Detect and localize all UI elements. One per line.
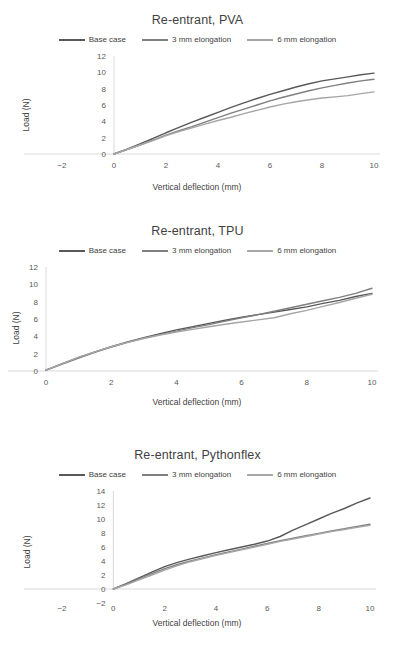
axis-y-title-pva: Load (N) xyxy=(21,85,31,145)
series-line-6-mm-elongation xyxy=(113,525,370,589)
y-tick-label: 2 xyxy=(34,349,39,358)
axis-y-title-tpu: Load (N) xyxy=(11,298,21,358)
legend-item-base-case[interactable]: Base case xyxy=(59,247,126,255)
legend-item-6mm-elongation[interactable]: 6 mm elongation xyxy=(247,247,336,255)
legend-swatch-6mm-elongation xyxy=(247,39,273,41)
chart-panel-tpu: Re-entrant, TPU Base case 3 mm elongatio… xyxy=(0,222,395,445)
legend-item-3mm-elongation[interactable]: 3 mm elongation xyxy=(142,471,231,479)
series-line-3-mm-elongation xyxy=(113,524,370,589)
series-line-3-mm-elongation xyxy=(46,288,372,370)
legend-label-6mm-elongation: 6 mm elongation xyxy=(277,247,336,255)
legend-label-6mm-elongation: 6 mm elongation xyxy=(277,36,336,44)
legend-item-3mm-elongation[interactable]: 3 mm elongation xyxy=(142,36,231,44)
y-tick-label: 8 xyxy=(101,529,106,538)
x-tick-label: 8 xyxy=(305,378,310,387)
series-line-3-mm-elongation xyxy=(114,79,374,154)
x-tick-label: 6 xyxy=(239,378,244,387)
x-tick-label: 2 xyxy=(162,604,167,613)
y-tick-label: 12 xyxy=(29,263,38,272)
legend-item-base-case[interactable]: Base case xyxy=(59,36,126,44)
y-tick-label: 4 xyxy=(101,557,106,566)
legend-item-6mm-elongation[interactable]: 6 mm elongation xyxy=(247,36,336,44)
y-tick-label: 6 xyxy=(102,101,107,110)
legend-label-base-case: Base case xyxy=(89,471,126,479)
y-tick-label: 10 xyxy=(29,280,38,289)
series-line-base-case xyxy=(46,293,372,370)
y-tick-label: 8 xyxy=(34,297,39,306)
plot-area-pythonflex: Load (N) −202468101214−20246810 Vertical… xyxy=(0,485,395,625)
axis-y-title-pythonflex: Load (N) xyxy=(22,522,32,582)
legend-swatch-3mm-elongation xyxy=(142,39,168,41)
y-tick-label: 6 xyxy=(34,315,39,324)
figure-three-panel-load-deflection: Re-entrant, PVA Base case 3 mm elongatio… xyxy=(0,0,395,662)
x-tick-label: 0 xyxy=(111,604,116,613)
y-tick-label: 0 xyxy=(101,585,106,594)
x-tick-label: 4 xyxy=(174,378,179,387)
plot-svg-pva: 024681012−20246810 xyxy=(0,50,395,185)
legend-label-base-case: Base case xyxy=(89,36,126,44)
chart-legend-pva: Base case 3 mm elongation 6 mm elongatio… xyxy=(0,36,395,44)
series-line-6-mm-elongation xyxy=(114,91,374,153)
legend-item-base-case[interactable]: Base case xyxy=(59,471,126,479)
y-tick-label: 12 xyxy=(96,501,105,510)
axis-x-title-tpu: Vertical deflection (mm) xyxy=(22,397,372,407)
plot-svg-pythonflex: −202468101214−20246810 xyxy=(0,485,395,625)
legend-swatch-6mm-elongation xyxy=(247,250,273,252)
legend-label-3mm-elongation: 3 mm elongation xyxy=(172,36,231,44)
x-tick-label: 6 xyxy=(265,604,270,613)
y-tick-label: 10 xyxy=(96,515,105,524)
legend-label-base-case: Base case xyxy=(89,247,126,255)
x-tick-label: 10 xyxy=(370,161,379,170)
y-tick-label: 4 xyxy=(102,117,107,126)
legend-item-6mm-elongation[interactable]: 6 mm elongation xyxy=(247,471,336,479)
y-tick-label: 0 xyxy=(102,150,107,159)
x-tick-label: 0 xyxy=(44,378,49,387)
y-tick-label: 6 xyxy=(101,543,106,552)
x-tick-label: 2 xyxy=(164,161,169,170)
chart-title-pva: Re-entrant, PVA xyxy=(0,0,395,27)
y-tick-label: 14 xyxy=(96,487,105,496)
x-tick-label: 4 xyxy=(216,161,221,170)
axis-x-title-pva: Vertical deflection (mm) xyxy=(22,182,372,192)
axis-x-title-pythonflex: Vertical deflection (mm) xyxy=(22,618,372,628)
x-tick-label: 0 xyxy=(112,161,117,170)
series-line-6-mm-elongation xyxy=(46,294,372,370)
chart-panel-pythonflex: Re-entrant, Pythonflex Base case 3 mm el… xyxy=(0,445,395,662)
x-tick-label: −2 xyxy=(57,604,67,613)
x-tick-label: 8 xyxy=(316,604,321,613)
chart-title-pythonflex: Re-entrant, Pythonflex xyxy=(0,445,395,462)
x-tick-label: 10 xyxy=(366,604,375,613)
y-tick-label: 12 xyxy=(97,52,106,61)
x-tick-label: 8 xyxy=(320,161,325,170)
legend-item-3mm-elongation[interactable]: 3 mm elongation xyxy=(142,247,231,255)
legend-swatch-3mm-elongation xyxy=(142,250,168,252)
chart-legend-tpu: Base case 3 mm elongation 6 mm elongatio… xyxy=(0,247,395,255)
legend-swatch-base-case xyxy=(59,39,85,41)
y-tick-label: −2 xyxy=(96,599,106,608)
y-tick-label: 2 xyxy=(101,571,106,580)
y-tick-label: 8 xyxy=(102,84,107,93)
legend-label-3mm-elongation: 3 mm elongation xyxy=(172,471,231,479)
legend-swatch-6mm-elongation xyxy=(247,474,273,476)
y-tick-label: 2 xyxy=(102,133,107,142)
x-tick-label: 2 xyxy=(109,378,114,387)
legend-swatch-3mm-elongation xyxy=(142,474,168,476)
legend-swatch-base-case xyxy=(59,474,85,476)
chart-panel-pva: Re-entrant, PVA Base case 3 mm elongatio… xyxy=(0,0,395,222)
chart-legend-pythonflex: Base case 3 mm elongation 6 mm elongatio… xyxy=(0,471,395,479)
y-tick-label: 4 xyxy=(34,332,39,341)
x-tick-label: 6 xyxy=(268,161,273,170)
legend-swatch-base-case xyxy=(59,250,85,252)
y-tick-label: 0 xyxy=(34,367,39,376)
x-tick-label: 10 xyxy=(368,378,377,387)
x-tick-label: 4 xyxy=(214,604,219,613)
plot-area-pva: Load (N) 024681012−20246810 Vertical def… xyxy=(0,50,395,185)
legend-label-3mm-elongation: 3 mm elongation xyxy=(172,247,231,255)
plot-area-tpu: Load (N) 0246810120246810 Vertical defle… xyxy=(0,261,395,401)
x-tick-label: −2 xyxy=(57,161,67,170)
y-tick-label: 10 xyxy=(97,68,106,77)
chart-title-tpu: Re-entrant, TPU xyxy=(0,222,395,238)
legend-label-6mm-elongation: 6 mm elongation xyxy=(277,471,336,479)
plot-svg-tpu: 0246810120246810 xyxy=(0,261,395,401)
